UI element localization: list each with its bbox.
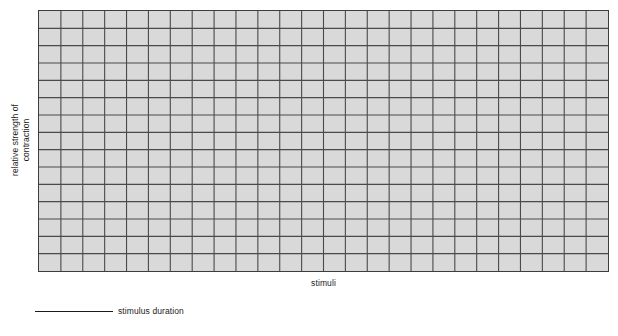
legend: stimulus duration <box>35 306 184 316</box>
legend-label: stimulus duration <box>118 306 184 316</box>
grid-lines <box>39 11 608 271</box>
legend-line-marker-icon <box>35 311 113 312</box>
plot-area <box>38 10 609 272</box>
y-axis-label: relative strength of contraction <box>4 60 38 220</box>
x-axis-label: stimuli <box>38 278 609 288</box>
y-axis-label-line-1: relative strength of <box>10 104 21 176</box>
y-axis-label-line-2: contraction <box>21 119 32 162</box>
myogram-figure: relative strength of contraction stimuli… <box>0 0 618 336</box>
